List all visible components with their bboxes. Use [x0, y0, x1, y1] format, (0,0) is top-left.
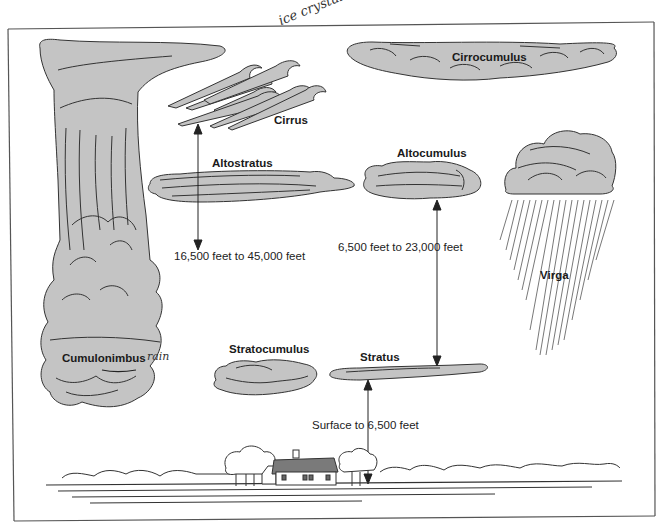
note-rain: rain	[147, 350, 169, 363]
frame-right	[654, 22, 655, 516]
frame-left	[8, 29, 14, 521]
stratocumulus-cloud	[214, 360, 317, 395]
label-altostratus: Altostratus	[212, 157, 273, 169]
label-cumulonimbus: Cumulonimbus	[62, 352, 146, 364]
treeline-right	[380, 463, 620, 472]
altostratus-cloud	[148, 171, 354, 202]
stratus-cloud	[330, 364, 488, 380]
range-middle: 6,500 feet to 23,000 feet	[338, 241, 463, 253]
altocumulus-cloud	[364, 161, 481, 198]
house-with-trees	[225, 446, 377, 486]
label-stratus: Stratus	[360, 351, 400, 363]
label-stratocumulus: Stratocumulus	[229, 343, 310, 355]
diagram-illustration	[0, 0, 662, 527]
label-virga: Virga	[540, 269, 569, 281]
range-low: Surface to 6,500 feet	[312, 419, 419, 431]
treeline-left	[62, 470, 230, 478]
chimney	[293, 450, 299, 458]
label-altocumulus: Altocumulus	[397, 147, 467, 159]
frame-bottom	[14, 516, 655, 521]
frame-top	[8, 22, 654, 29]
range-high: 16,500 feet to 45,000 feet	[174, 250, 305, 262]
cloud-types-diagram: Cirrus Cirrocumulus Altostratus Altocumu…	[0, 0, 662, 527]
label-cirrus: Cirrus	[274, 114, 308, 126]
virga-cloud	[500, 131, 616, 355]
label-cirrocumulus: Cirrocumulus	[452, 51, 527, 63]
